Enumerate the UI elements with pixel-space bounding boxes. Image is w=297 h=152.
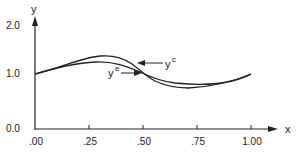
y-tick-label: 0.0 — [6, 123, 20, 134]
x-axis-title: x — [285, 123, 291, 135]
y-axis-title: y — [31, 3, 37, 15]
svg-text:e: e — [115, 64, 120, 73]
annotation-yc: y c — [137, 55, 176, 70]
x-tick-label: .00 — [29, 136, 43, 147]
svg-text:y: y — [108, 67, 114, 79]
x-tick-label: 1.00 — [242, 136, 262, 147]
x-tick-label: .75 — [191, 136, 205, 147]
x-axis-arrow-icon — [268, 126, 278, 132]
x-tick-label: .50 — [137, 136, 151, 147]
arrow-left-icon — [137, 60, 145, 66]
y-tick-label: 1.0 — [6, 68, 20, 79]
y-axis-arrow-icon — [32, 16, 38, 26]
svg-text:y: y — [165, 58, 171, 70]
chart: .00 .25 .50 .75 1.00 0.0 1.0 2.0 y x y c… — [0, 0, 297, 152]
y-tick-label: 2.0 — [6, 20, 20, 31]
x-tick-label: .25 — [83, 136, 97, 147]
svg-text:c: c — [172, 55, 176, 64]
